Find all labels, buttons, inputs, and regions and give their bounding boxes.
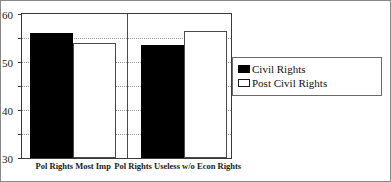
legend-swatch-icon-post-civil-rights [238,79,250,87]
bar-civil-rights[interactable] [30,33,73,158]
y-axis-tick-label: 50 [2,58,13,69]
y-axis-tick: 20 [18,110,22,111]
legend-swatch-icon-civil-rights [238,65,250,73]
bar-civil-rights[interactable] [141,45,184,158]
x-axis-tick-label: Pol Rights Useless w/o Econ Rights [114,161,241,171]
y-axis-tick: 0 [18,158,22,159]
y-axis-tick: 30 [18,86,22,87]
bar-post-civil-rights[interactable] [73,43,116,158]
legend-label-post-civil-rights: Post Civil Rights [252,77,327,89]
x-axis-tick-label: Pol Rights Most Imp [36,161,111,171]
legend-item-civil-rights[interactable]: Civil Rights [238,62,376,75]
legend-label-civil-rights: Civil Rights [252,63,306,75]
bar-post-civil-rights[interactable] [184,31,227,158]
y-axis-tick: 10 [18,134,22,135]
y-axis-tick-label: 60 [2,10,13,21]
y-axis-tick-label: 30 [2,154,13,165]
y-axis-tick: 50 [18,38,22,39]
y-axis-tick: 60 [18,14,22,15]
legend-item-post-civil-rights[interactable]: Post Civil Rights [238,76,376,89]
category-separator [127,14,128,158]
y-axis-tick-label: 40 [2,106,13,117]
chart-legend: Civil Rights Post Civil Rights [232,57,382,96]
plot-inner: 0102030405060 [22,14,231,158]
plot-area: 0102030405060 [21,13,232,159]
y-axis-tick: 40 [18,62,22,63]
chart-figure: 0102030405060 Pol Rights Most ImpPol Rig… [0,0,391,182]
